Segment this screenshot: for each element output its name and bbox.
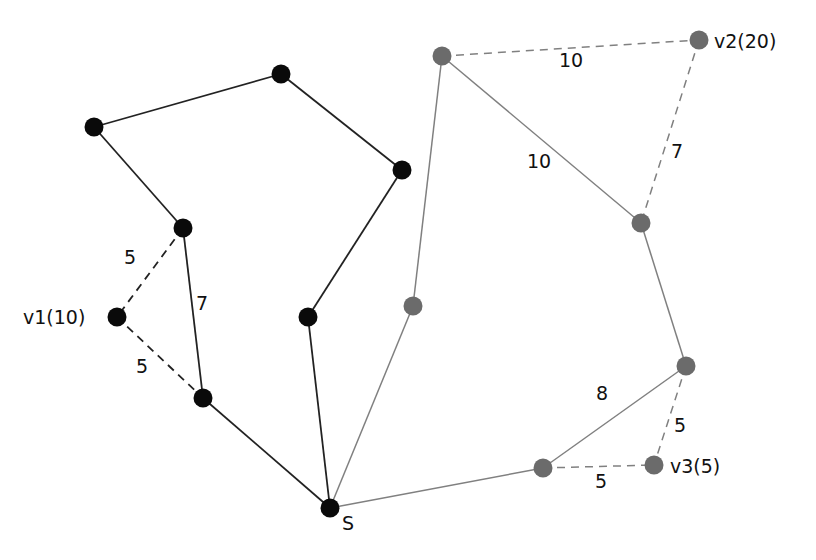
edge-weight-label: 7 <box>671 140 683 162</box>
graph-diagram: 75510107855 v1(10)Sv2(20)v3(5) <box>0 0 816 560</box>
edge-K-v3 <box>543 465 654 468</box>
node-A <box>272 65 291 84</box>
node-v2 <box>690 31 709 50</box>
node-label-v2: v2(20) <box>714 30 776 52</box>
edge-D-v1 <box>117 228 183 317</box>
edge-weight-label: 5 <box>595 470 607 492</box>
edge-weight-label: 10 <box>527 150 551 172</box>
edge-E-S <box>308 317 330 508</box>
node-C <box>393 161 412 180</box>
edge-I-G <box>413 56 442 306</box>
node-I <box>404 297 423 316</box>
edge-S-I <box>330 306 413 508</box>
edge-C-E <box>308 170 402 317</box>
node-labels-layer: v1(10)Sv2(20)v3(5) <box>23 30 776 534</box>
edge-B-D <box>94 127 183 228</box>
node-v1 <box>108 308 127 327</box>
node-H <box>632 214 651 233</box>
edge-F-S <box>203 398 330 508</box>
edge-A-C <box>281 74 402 170</box>
node-label-v3: v3(5) <box>670 455 720 477</box>
edges-layer <box>94 40 699 508</box>
node-K <box>534 459 553 478</box>
edge-S-K <box>330 468 543 508</box>
node-G <box>433 47 452 66</box>
edge-weight-label: 5 <box>674 414 686 436</box>
edge-weight-label: 10 <box>559 49 583 71</box>
node-F <box>194 389 213 408</box>
edge-weight-label: 5 <box>124 246 136 268</box>
node-J <box>677 357 696 376</box>
edge-G-H <box>442 56 641 223</box>
edge-weight-label: 5 <box>136 355 148 377</box>
edge-H-J <box>641 223 686 366</box>
node-E <box>299 308 318 327</box>
edge-B-A <box>94 74 281 127</box>
node-S <box>321 499 340 518</box>
node-D <box>174 219 193 238</box>
edge-J-K <box>543 366 686 468</box>
edge-weight-label: 7 <box>196 292 208 314</box>
edge-weight-label: 8 <box>596 382 608 404</box>
node-label-S: S <box>342 512 354 534</box>
node-v3 <box>645 456 664 475</box>
node-label-v1: v1(10) <box>23 306 85 328</box>
edge-v2-H <box>641 40 699 223</box>
node-B <box>85 118 104 137</box>
edge-v1-F <box>117 317 203 398</box>
